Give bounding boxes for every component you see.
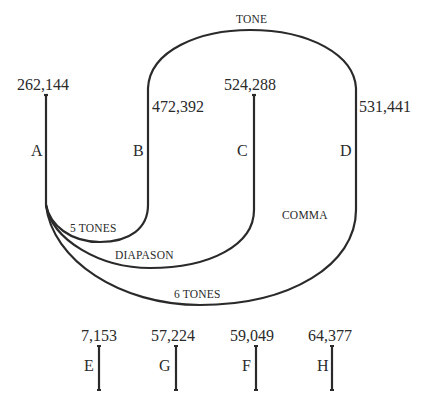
value-a: 262,144	[17, 77, 69, 93]
value-d: 531,441	[359, 99, 411, 115]
value-b: 472,392	[152, 99, 204, 115]
label-6-tones: 6 TONES	[174, 289, 221, 301]
letter-e: E	[84, 358, 94, 374]
letter-a: A	[31, 143, 43, 159]
label-5-tones: 5 TONES	[70, 223, 117, 235]
label-tone: TONE	[236, 14, 267, 26]
value-g: 57,224	[151, 328, 195, 344]
letter-f: F	[242, 358, 251, 374]
label-comma: COMMA	[282, 210, 328, 222]
value-e: 7,153	[81, 328, 117, 344]
label-diapason: DIAPASON	[115, 250, 174, 262]
value-c: 524,288	[224, 77, 276, 93]
letter-g: G	[159, 358, 171, 374]
letter-c: C	[237, 143, 248, 159]
letter-h: H	[317, 358, 329, 374]
letter-b: B	[133, 143, 144, 159]
letter-d: D	[340, 143, 352, 159]
value-h: 64,377	[308, 328, 352, 344]
value-f: 59,049	[230, 328, 274, 344]
interval-diagram	[0, 0, 433, 411]
